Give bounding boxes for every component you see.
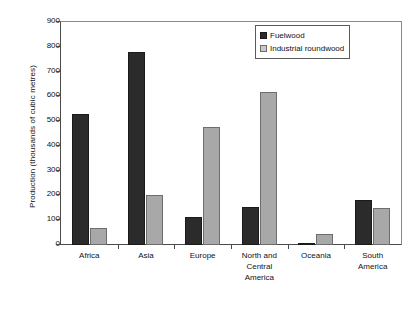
x-tick-mark xyxy=(344,245,345,249)
bar-chart: Production (thousands of cubic metres) 9… xyxy=(0,0,417,313)
y-tick-label: 200 xyxy=(8,190,60,198)
bar-industrial-roundwood xyxy=(90,228,107,245)
y-tick-label: 300 xyxy=(8,166,60,174)
x-axis-labels: AfricaAsiaEuropeNorth andCentralAmericaO… xyxy=(61,250,401,310)
x-tick-label: Oceania xyxy=(288,250,345,261)
bar-group xyxy=(174,22,231,245)
bar-fuelwood xyxy=(298,243,315,245)
x-tick-label-line: Asia xyxy=(118,250,175,261)
y-tick-label: 700 xyxy=(8,67,60,75)
bar-industrial-roundwood xyxy=(146,195,163,245)
x-tick-label-line: America xyxy=(344,261,401,272)
legend-item[interactable]: Fuelwood xyxy=(260,29,344,42)
bar-industrial-roundwood xyxy=(203,127,220,245)
x-tick-label-line: America xyxy=(231,272,288,283)
bar-group xyxy=(344,22,401,245)
legend-swatch-icon xyxy=(260,32,267,39)
chart-legend: FuelwoodIndustrial roundwood xyxy=(255,25,350,59)
x-tick-label-line: Europe xyxy=(174,250,231,261)
legend-label: Industrial roundwood xyxy=(270,44,344,53)
y-tick-label: 0 xyxy=(8,240,60,248)
x-tick-label: Africa xyxy=(61,250,118,261)
x-tick-mark xyxy=(231,245,232,249)
x-tick-label: Europe xyxy=(174,250,231,261)
x-tick-label-line: Central xyxy=(231,261,288,272)
x-tick-label-line: South xyxy=(344,250,401,261)
x-tick-label-line: Oceania xyxy=(288,250,345,261)
x-tick-mark xyxy=(174,245,175,249)
x-tick-label: North andCentralAmerica xyxy=(231,250,288,283)
bar-fuelwood xyxy=(185,217,202,245)
bar-industrial-roundwood xyxy=(373,208,390,245)
y-tick-label: 500 xyxy=(8,116,60,124)
bar-fuelwood xyxy=(355,200,372,245)
y-tick-label: 800 xyxy=(8,42,60,50)
x-tick-label-line: North and xyxy=(231,250,288,261)
legend-item[interactable]: Industrial roundwood xyxy=(260,42,344,55)
y-axis: 9008007006005004003002001000 xyxy=(0,0,60,313)
bar-industrial-roundwood xyxy=(260,92,277,245)
legend-swatch-icon xyxy=(260,45,267,52)
bar-fuelwood xyxy=(128,52,145,245)
bar-industrial-roundwood xyxy=(316,234,333,245)
x-tick-label: SouthAmerica xyxy=(344,250,401,272)
x-tick-mark xyxy=(288,245,289,249)
y-tick-label: 400 xyxy=(8,141,60,149)
bar-fuelwood xyxy=(242,207,259,245)
bar-group xyxy=(118,22,175,245)
x-tick-label: Asia xyxy=(118,250,175,261)
bar-group xyxy=(61,22,118,245)
y-tick-label: 100 xyxy=(8,215,60,223)
y-tick-label: 900 xyxy=(8,17,60,25)
legend-label: Fuelwood xyxy=(270,31,305,40)
x-tick-label-line: Africa xyxy=(61,250,118,261)
y-tick-label: 600 xyxy=(8,91,60,99)
bar-fuelwood xyxy=(72,114,89,245)
x-tick-mark xyxy=(118,245,119,249)
